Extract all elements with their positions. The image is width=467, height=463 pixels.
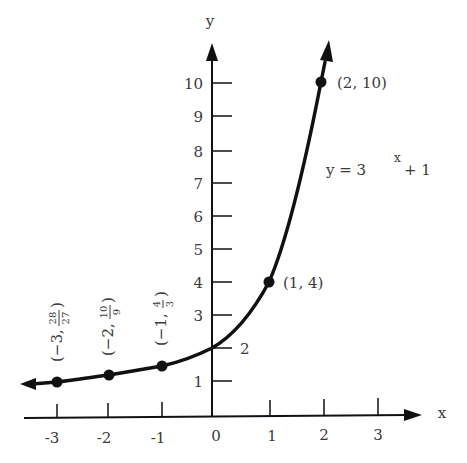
y-tick-label: 10	[184, 75, 203, 93]
y-tick-label: 7	[193, 175, 203, 193]
svg-text:3: 3	[164, 301, 175, 307]
y-tick-label: 6	[193, 208, 203, 226]
y-tick-label: 4	[193, 274, 203, 292]
point-2-10	[316, 77, 327, 88]
point-label-1-4: (1, 4)	[283, 274, 323, 292]
svg-text:9: 9	[111, 309, 122, 315]
x-tick-label: 0	[211, 427, 221, 445]
point-1-4	[264, 277, 275, 288]
x-tick-label: -2	[97, 429, 112, 447]
y-tick-label: 3	[193, 307, 203, 325]
svg-text:x: x	[394, 151, 401, 165]
y-tick-label: 9	[193, 108, 203, 126]
x-tick-label: 3	[373, 426, 383, 444]
svg-text:): )	[152, 291, 170, 297]
curve-top-arrow-icon	[320, 40, 333, 62]
point-neg1	[157, 361, 168, 372]
x-tick-label: -1	[151, 429, 166, 447]
curve-left-arrow-icon	[20, 378, 36, 390]
x-tick-label: 2	[319, 426, 329, 444]
x-axis-arrow-icon	[404, 409, 422, 421]
svg-text:(−3,: (−3,	[48, 329, 66, 362]
point-label-neg2: (−2, 10 9 )	[98, 297, 122, 356]
point-neg2	[104, 370, 115, 381]
y-tick-label: 8	[193, 143, 203, 161]
equation-label: y = 3 x + 1	[325, 151, 431, 179]
y-tick-label: 5	[193, 241, 203, 259]
curve	[20, 40, 333, 390]
x-tick-label: -3	[45, 429, 60, 447]
svg-text:): )	[99, 297, 117, 303]
point-label-2-10: (2, 10)	[337, 74, 387, 92]
y-tick-label: 2	[240, 340, 250, 358]
y-tick-label: 1	[193, 373, 203, 391]
x-axis: -3 -2 -1 0 1 2 3 x	[24, 398, 447, 447]
svg-text:10: 10	[98, 306, 109, 319]
svg-text:4: 4	[151, 301, 162, 307]
svg-text:): )	[48, 302, 66, 308]
point-label-neg3: (−3, 28 27 )	[47, 302, 71, 362]
y-axis-arrow-icon	[206, 43, 218, 61]
x-tick-label: 1	[267, 427, 277, 445]
svg-text:(−1,: (−1,	[152, 313, 170, 346]
exponential-graph: -3 -2 -1 0 1 2 3 x 1 2 3 4 5 6 7 8 9	[0, 0, 467, 463]
point-label-neg1: (−1, 4 3 )	[151, 291, 175, 346]
x-axis-label: x	[438, 404, 447, 422]
svg-text:+ 1: + 1	[404, 161, 431, 179]
svg-text:27: 27	[60, 312, 71, 325]
svg-text:28: 28	[47, 312, 58, 325]
svg-text:(−2,: (−2,	[99, 323, 117, 356]
svg-text:y = 3: y = 3	[325, 161, 366, 179]
point-neg3	[52, 377, 63, 388]
y-axis-label: y	[205, 12, 215, 30]
